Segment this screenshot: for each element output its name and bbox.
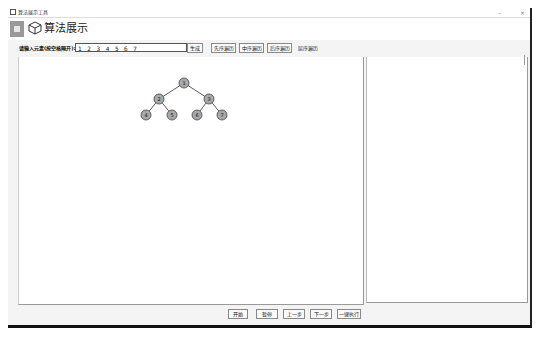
tree-node: 7 (217, 110, 227, 120)
pause-button[interactable]: 暂停 (256, 309, 278, 319)
svg-text:5: 5 (170, 112, 173, 118)
tree-node: 6 (192, 110, 202, 120)
tree-node: 5 (167, 110, 177, 120)
svg-text:6: 6 (195, 112, 198, 118)
svg-text:4: 4 (144, 112, 147, 118)
binary-tree: 1234567 (8, 8, 532, 328)
playback-controls: 开始 暂停 上一步 下一步 一键执行 (8, 307, 530, 321)
next-step-button[interactable]: 下一步 (310, 309, 332, 319)
svg-text:2: 2 (157, 96, 160, 102)
tree-node: 1 (179, 78, 189, 88)
start-button[interactable]: 开始 (228, 309, 248, 319)
svg-text:1: 1 (182, 80, 185, 86)
tree-node: 4 (141, 110, 151, 120)
run-all-button[interactable]: 一键执行 (337, 309, 361, 319)
svg-text:3: 3 (207, 96, 210, 102)
tree-node: 2 (154, 94, 164, 104)
svg-text:7: 7 (220, 112, 223, 118)
prev-step-button[interactable]: 上一步 (283, 309, 305, 319)
tree-node: 3 (204, 94, 214, 104)
app-window: 算法展示工具 – × 算法展示 请输入元素(按空格隔开): 1 2 3 4 5 … (8, 8, 532, 328)
